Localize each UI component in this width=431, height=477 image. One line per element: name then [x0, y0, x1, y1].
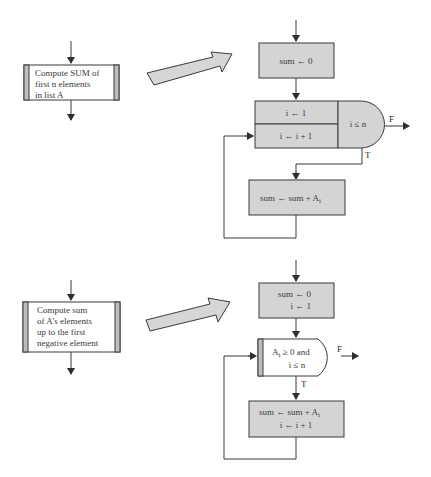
flowchart-figure: Compute SUM of first n elements in list … — [0, 0, 431, 477]
top-process-right-bar — [114, 65, 119, 100]
bottom-predefined-process: Compute sum of A’s elements up to the fi… — [23, 280, 120, 374]
loop-condition-text: i ≤ n — [350, 119, 367, 129]
bottom-decision-left-bar — [258, 339, 263, 376]
bottom-process-line-2: of A’s elements — [37, 316, 92, 326]
bottom-process-line-3: up to the first — [37, 327, 86, 337]
top-process-line-3: in list A — [35, 90, 64, 100]
bottom-init-line-1: sum ← 0 — [278, 289, 312, 299]
top-flowchart: sum ← 0 i ← 1 i ← i + 1 i ≤ n F T sum ← … — [224, 20, 409, 238]
top-false-label: F — [389, 114, 394, 124]
top-true-path — [296, 148, 362, 178]
bottom-process-right-bar — [115, 302, 120, 352]
top-process-line-2: first n elements — [35, 79, 91, 89]
decision-line-2: i ≤ n — [289, 360, 306, 370]
loop-init-text: i ← 1 — [286, 108, 307, 118]
bottom-body-line-2: i ← i + 1 — [280, 420, 313, 430]
bottom-flowchart: sum ← 0 i ← 1 Ai ≥ 0 and i ≤ n F T sum ←… — [224, 260, 358, 459]
bottom-decision-shape — [258, 339, 327, 376]
top-process-left-bar — [24, 65, 29, 100]
top-process-line-1: Compute SUM of — [35, 68, 100, 78]
bottom-expand-arrow-icon — [146, 298, 230, 331]
bottom-init-line-2: i ← 1 — [290, 301, 311, 311]
top-expand-arrow-icon — [147, 52, 232, 85]
bottom-process-line-1: Compute sum — [37, 305, 87, 315]
top-init-text: sum ← 0 — [279, 56, 313, 66]
bottom-process-left-bar — [23, 302, 28, 352]
loop-increment-text: i ← i + 1 — [280, 131, 313, 141]
bottom-process-line-4: negative element — [37, 338, 99, 348]
bottom-false-label: F — [337, 344, 342, 354]
top-true-label: T — [365, 150, 371, 160]
top-predefined-process: Compute SUM of first n elements in list … — [24, 41, 119, 120]
bottom-true-label: T — [301, 379, 307, 389]
